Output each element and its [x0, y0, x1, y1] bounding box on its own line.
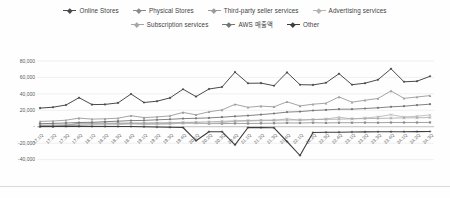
point-marker — [351, 122, 353, 124]
legend-label: Physical Stores — [149, 7, 194, 14]
legend-label: AWS 매출액 — [238, 20, 273, 29]
legend-marker-icon — [131, 21, 144, 28]
point-marker — [91, 121, 93, 123]
series-line-online-stores — [40, 69, 430, 108]
legend-marker-icon — [133, 7, 146, 14]
point-marker — [299, 111, 301, 113]
point-marker — [182, 118, 184, 120]
revenue-line-chart-figure: Online StoresPhysical StoresThird-party … — [0, 0, 450, 198]
series-third-party-seller-services — [39, 90, 432, 123]
legend-item-online-stores: Online Stores — [63, 7, 118, 14]
legend-item-other: Other — [287, 21, 319, 28]
point-marker — [104, 121, 106, 123]
legend-label: Online Stores — [79, 7, 118, 14]
point-marker — [247, 115, 249, 117]
point-marker — [143, 119, 145, 121]
legend-marker-icon — [208, 7, 221, 14]
point-marker — [260, 114, 262, 116]
legend-row-1: Online StoresPhysical StoresThird-party … — [63, 7, 386, 14]
point-marker — [338, 122, 340, 124]
legend-item-physical-stores: Physical Stores — [133, 7, 194, 14]
point-marker — [52, 106, 55, 109]
point-marker — [403, 105, 405, 107]
point-marker — [130, 125, 133, 128]
y-tick-label: 60,000 — [20, 74, 36, 80]
point-marker — [286, 122, 288, 124]
y-tick-label: 20,000 — [20, 107, 36, 113]
point-marker — [429, 103, 431, 105]
point-marker — [286, 111, 288, 113]
point-marker — [377, 107, 379, 109]
point-marker — [78, 121, 80, 123]
legend-item-aws-revenue: AWS 매출액 — [222, 20, 273, 29]
point-marker — [104, 103, 107, 106]
point-marker — [364, 122, 366, 124]
point-marker — [403, 130, 406, 133]
point-marker — [351, 108, 353, 110]
point-marker — [260, 122, 262, 124]
point-marker — [403, 121, 405, 123]
point-marker — [364, 82, 367, 85]
point-marker — [390, 121, 392, 123]
chart-canvas: 80,00060,00040,00020,000--20,000-40,0001… — [0, 0, 450, 198]
point-marker — [221, 116, 223, 118]
y-tick-label: 80,000 — [20, 58, 36, 64]
legend-marker-icon — [313, 7, 326, 14]
point-marker — [325, 122, 327, 124]
legend-marker-icon — [287, 21, 300, 28]
point-marker — [39, 123, 41, 125]
y-tick-label: - — [33, 123, 35, 129]
legend-row-2: Subscription servicesAWS 매출액Other — [131, 20, 319, 29]
legend-marker-icon — [63, 7, 76, 14]
y-tick-label: 40,000 — [20, 91, 36, 97]
point-marker — [156, 119, 158, 121]
legend-marker-icon — [222, 21, 235, 28]
point-marker — [416, 130, 419, 133]
legend-item-third-party-seller-services: Third-party seller services — [208, 7, 299, 14]
point-marker — [416, 104, 418, 106]
legend-label: Subscription services — [147, 21, 209, 28]
point-marker — [65, 122, 67, 124]
point-marker — [390, 130, 393, 133]
point-marker — [208, 117, 210, 119]
point-marker — [390, 90, 393, 93]
point-marker — [429, 121, 431, 123]
point-marker — [195, 117, 197, 119]
point-marker — [364, 131, 367, 134]
legend-label: Third-party seller services — [224, 7, 299, 14]
point-marker — [273, 112, 275, 114]
point-marker — [416, 80, 419, 83]
point-marker — [338, 108, 340, 110]
point-marker — [325, 109, 327, 111]
point-marker — [130, 120, 132, 122]
point-marker — [273, 122, 275, 124]
point-marker — [156, 100, 159, 103]
legend-item-advertising-services: Advertising services — [313, 7, 387, 14]
point-marker — [156, 126, 159, 129]
point-marker — [429, 130, 432, 133]
point-marker — [416, 121, 418, 123]
legend-label: Other — [303, 21, 319, 28]
legend-label: Advertising services — [329, 7, 387, 14]
point-marker — [377, 131, 380, 134]
point-marker — [234, 115, 236, 117]
point-marker — [234, 122, 236, 124]
y-axis-labels: 80,00060,00040,00020,000--20,000-40,000 — [18, 58, 35, 163]
point-marker — [260, 82, 263, 85]
point-marker — [377, 122, 379, 124]
legend: Online StoresPhysical StoresThird-party … — [0, 7, 450, 29]
point-marker — [364, 107, 366, 109]
legend-item-subscription-services: Subscription services — [131, 21, 209, 28]
point-marker — [117, 120, 119, 122]
point-marker — [312, 109, 314, 111]
point-marker — [390, 106, 392, 108]
point-marker — [247, 122, 249, 124]
point-marker — [312, 84, 315, 87]
y-tick-label: -40,000 — [18, 156, 35, 162]
point-marker — [312, 122, 314, 124]
point-marker — [52, 122, 54, 124]
point-marker — [299, 122, 301, 124]
point-marker — [169, 118, 171, 120]
point-marker — [39, 107, 42, 110]
